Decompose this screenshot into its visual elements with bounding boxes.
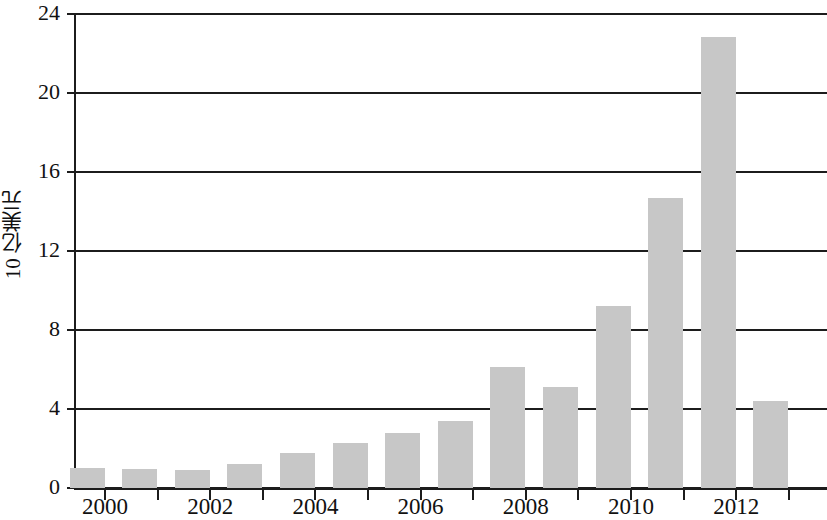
x-axis-tick-mark [157,489,159,500]
x-axis-tick-label: 2002 [165,494,255,520]
x-axis-tick-mark [577,489,579,500]
bar [227,464,262,488]
x-axis-tick-label: 2000 [60,494,150,520]
bar [122,469,157,488]
x-axis-tick-label: 2006 [376,494,466,520]
bar [596,306,631,488]
bar [175,470,210,488]
x-axis-tick-label: 2012 [691,494,781,520]
bars-series [0,0,827,520]
x-axis-tick-mark [788,489,790,500]
x-axis-tick-label: 2004 [270,494,360,520]
bar [701,37,736,488]
bar [753,401,788,488]
bar [385,433,420,488]
x-axis-tick-mark [367,489,369,500]
x-axis-tick-label: 2010 [586,494,676,520]
x-axis-tick-mark [472,489,474,500]
x-axis-tick-mark [683,489,685,500]
bar [490,367,525,488]
bar-chart: 10 亿美元 04812162024 200020022004200620082… [0,0,827,520]
x-axis-tick-label: 2008 [481,494,571,520]
bar [648,198,683,488]
bar [70,468,105,488]
bar [280,453,315,488]
bar [438,421,473,488]
bar [543,387,578,488]
bar [333,443,368,488]
x-axis-tick-mark [262,489,264,500]
